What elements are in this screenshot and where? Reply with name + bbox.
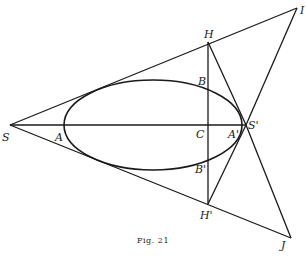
label-s: S: [2, 131, 10, 144]
label-j: J: [279, 239, 286, 252]
line-sprime-j: [246, 125, 291, 238]
tangent-line-s-j: [10, 125, 291, 238]
geometry-figure: S A C A' S' H H' B B' I J Fig. 21: [0, 0, 306, 256]
label-h-prime: H': [199, 209, 213, 222]
label-s-prime: S': [248, 119, 259, 132]
line-hprime-sprime: [208, 125, 246, 204]
label-i: I: [299, 4, 305, 17]
figure-caption: Fig. 21: [137, 236, 169, 245]
label-a: A: [54, 131, 63, 144]
label-b: B: [197, 75, 206, 88]
label-c: C: [196, 128, 205, 141]
label-b-prime: B': [194, 163, 206, 176]
line-h-sprime: [208, 42, 246, 125]
label-h: H: [203, 28, 214, 41]
label-a-prime: A': [227, 128, 239, 141]
